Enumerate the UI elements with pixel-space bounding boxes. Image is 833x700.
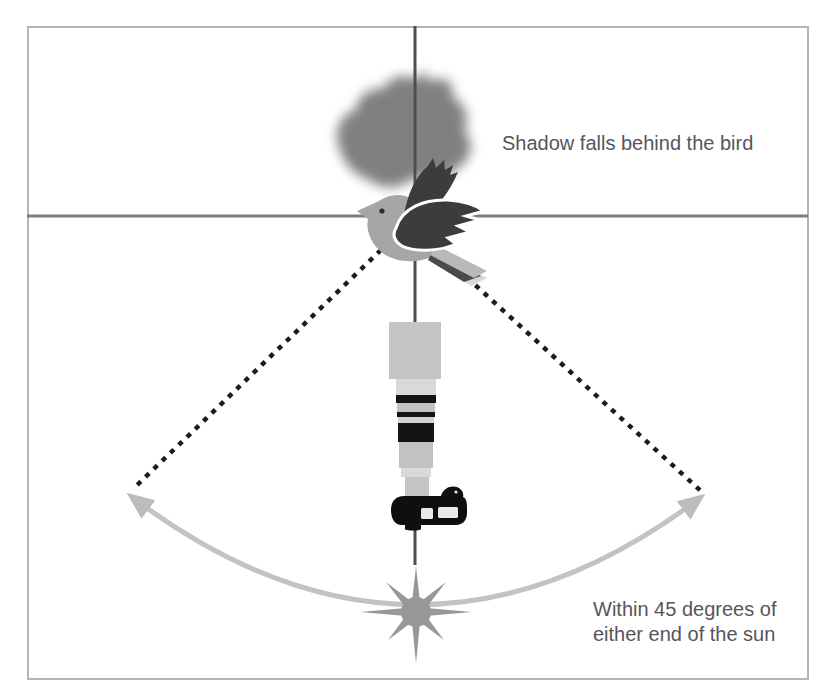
sun-icon bbox=[360, 566, 472, 664]
sun-angle-label: Within 45 degrees of either end of the s… bbox=[593, 597, 776, 647]
diagram-canvas bbox=[0, 0, 833, 700]
sun-angle-label-line1: Within 45 degrees of bbox=[593, 597, 776, 622]
telephoto-lens-icon bbox=[389, 322, 441, 496]
shadow-label: Shadow falls behind the bird bbox=[502, 131, 753, 156]
diagram-stage: Shadow falls behind the bird Within 45 d… bbox=[0, 0, 833, 700]
sun-angle-label-line2: either end of the sun bbox=[593, 622, 776, 647]
sightline-dotted-left bbox=[133, 250, 381, 489]
sightline-dotted-right bbox=[450, 262, 702, 492]
